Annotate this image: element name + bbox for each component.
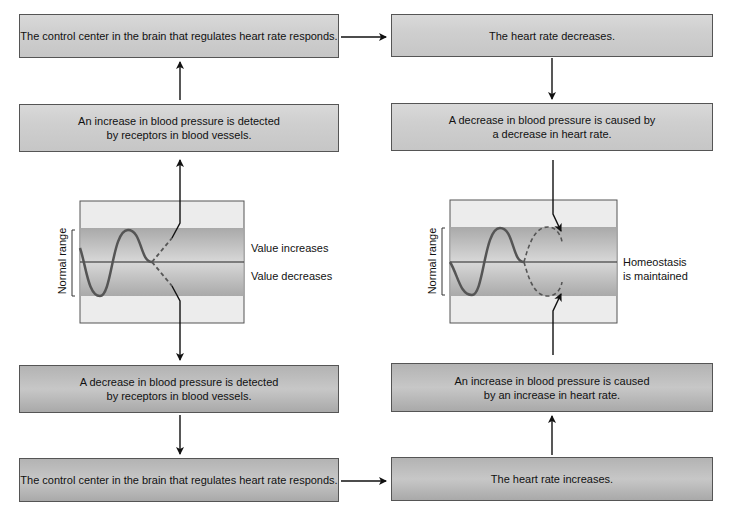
diagram-graphics <box>0 0 731 516</box>
right-normal-range-label: Normal range <box>426 228 438 295</box>
left-normal-range-label: Normal range <box>56 228 68 295</box>
value-decreases-label: Value decreases <box>251 269 332 283</box>
right-graph <box>442 160 617 355</box>
value-increases-label: Value increases <box>251 241 328 255</box>
left-graph <box>72 160 244 360</box>
homeostasis-label: Homeostasisis maintained <box>623 255 688 283</box>
